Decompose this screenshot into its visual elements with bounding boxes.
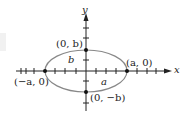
semi-major-label: a (101, 77, 107, 87)
y-axis-label: y (82, 5, 88, 15)
x-axis-arrow-icon (164, 69, 172, 74)
right-vertex-point (125, 69, 129, 73)
semi-minor-label: b (68, 55, 74, 65)
top-covertex-label: (0, b) (56, 39, 83, 49)
top-covertex-point (84, 48, 88, 52)
bottom-covertex-label: (0, −b) (90, 93, 125, 103)
left-vertex-point (43, 69, 47, 73)
right-vertex-label: (a, 0) (126, 58, 152, 68)
left-vertex-label: (−a, 0) (14, 77, 49, 87)
ellipse-diagram: y x (0, b) (a, 0) (−a, 0) (0, −b) b a (0, 0, 189, 119)
x-axis-label: x (174, 65, 180, 75)
left-edge-artifact (0, 33, 6, 51)
bottom-covertex-point (84, 90, 88, 94)
